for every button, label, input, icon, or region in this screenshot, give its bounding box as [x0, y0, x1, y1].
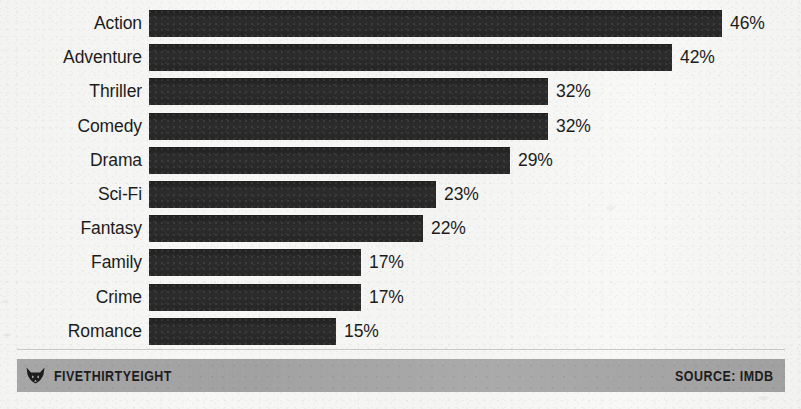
bar-track: 29%: [149, 147, 801, 174]
bar-track: 32%: [149, 78, 801, 105]
bar-track: 22%: [149, 215, 801, 242]
bar: [149, 78, 548, 105]
category-label: Sci-Fi: [0, 181, 142, 208]
bar-track: 23%: [149, 181, 801, 208]
bar-value-label: 15%: [344, 318, 379, 345]
category-label: Crime: [0, 284, 142, 311]
category-label: Action: [0, 10, 142, 37]
bar-row: Thriller32%: [0, 78, 801, 105]
category-label: Fantasy: [0, 215, 142, 242]
bar-track: 17%: [149, 249, 801, 276]
category-label: Drama: [0, 147, 142, 174]
bar-row: Romance15%: [0, 318, 801, 345]
bar-track: 32%: [149, 113, 801, 140]
bar-value-label: 32%: [556, 113, 591, 140]
bar-row: Sci-Fi23%: [0, 181, 801, 208]
bar-track: 42%: [149, 44, 801, 71]
source-block: SOURCE: IMDB: [659, 359, 774, 392]
bar-row: Drama29%: [0, 147, 801, 174]
bar-value-label: 29%: [518, 147, 553, 174]
bar-row: Adventure42%: [0, 44, 801, 71]
category-label: Adventure: [0, 44, 142, 71]
category-label: Family: [0, 249, 142, 276]
bar-value-label: 22%: [431, 215, 466, 242]
bar-track: 17%: [149, 284, 801, 311]
chart-figure: Action46%Adventure42%Thriller32%Comedy32…: [0, 0, 801, 409]
bar-row: Fantasy22%: [0, 215, 801, 242]
bar-value-label: 46%: [730, 10, 765, 37]
bar: [149, 181, 436, 208]
category-label: Romance: [0, 318, 142, 345]
brand-block: FIVETHIRTYEIGHT: [26, 359, 191, 392]
bar: [149, 215, 423, 242]
bar-value-label: 17%: [369, 249, 404, 276]
bar-row: Crime17%: [0, 284, 801, 311]
fox-head-icon: [26, 367, 45, 384]
bar-row: Comedy32%: [0, 113, 801, 140]
bar-value-label: 17%: [369, 284, 404, 311]
brand-label: FIVETHIRTYEIGHT: [54, 368, 172, 384]
bar: [149, 249, 361, 276]
footer-divider: [17, 349, 785, 350]
bar: [149, 44, 672, 71]
bar-row: Action46%: [0, 10, 801, 37]
source-label: SOURCE: IMDB: [675, 368, 774, 384]
footer-bar: FIVETHIRTYEIGHT SOURCE: IMDB: [17, 359, 785, 392]
bar: [149, 10, 722, 37]
bar: [149, 147, 510, 174]
bar-value-label: 42%: [680, 44, 715, 71]
bar-row: Family17%: [0, 249, 801, 276]
bar-track: 46%: [149, 10, 801, 37]
bar-chart-plot-area: Action46%Adventure42%Thriller32%Comedy32…: [0, 0, 801, 352]
bar-value-label: 32%: [556, 78, 591, 105]
category-label: Thriller: [0, 78, 142, 105]
bar: [149, 284, 361, 311]
bar-value-label: 23%: [444, 181, 479, 208]
bar: [149, 113, 548, 140]
bar: [149, 318, 336, 345]
bar-track: 15%: [149, 318, 801, 345]
category-label: Comedy: [0, 113, 142, 140]
